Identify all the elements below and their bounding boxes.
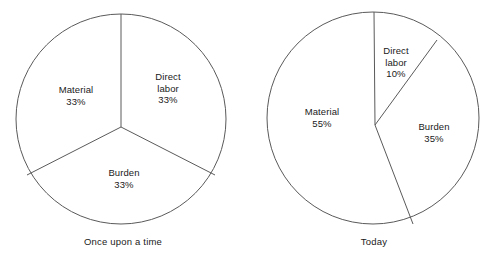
slice-label-burden: Burden 33% [108, 167, 139, 190]
pie-chart-right: Material 55% Direct labor 10% Burden 35%… [246, 0, 493, 260]
pie-right-circle [267, 12, 479, 224]
slice-label-direct-labor: Direct labor 10% [383, 45, 408, 80]
pie-chart-left: Material 33% Direct labor 33% Burden 33%… [0, 0, 247, 260]
chart-caption-left: Once upon a time [84, 236, 162, 247]
pie-chart-figure: Material 33% Direct labor 33% Burden 33%… [0, 0, 493, 260]
pie-right-graphic [246, 0, 493, 260]
slice-label-material: Material 55% [305, 106, 340, 129]
chart-caption-right: Today [361, 236, 387, 247]
pie-left-graphic [0, 0, 247, 260]
slice-label-material: Material 33% [59, 84, 94, 107]
slice-label-direct-labor: Direct labor 33% [155, 71, 180, 106]
slice-label-burden: Burden 35% [418, 121, 449, 144]
